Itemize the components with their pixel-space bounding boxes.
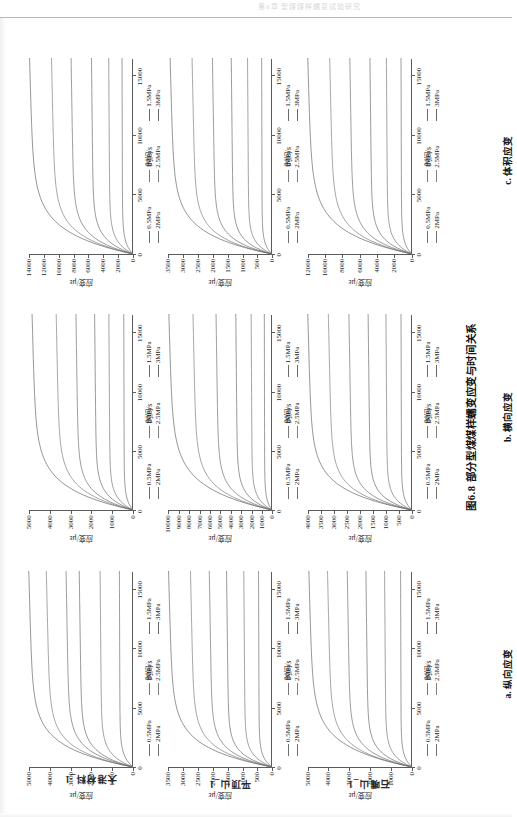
legend-label: 1MPa: [424, 408, 432, 425]
series-line-1.5MPa: [370, 58, 412, 254]
legend-item-1.5MPa[interactable]: 1.5MPa: [424, 63, 432, 121]
y-tick-label: 6000: [85, 259, 92, 273]
y-tick-label: 0: [269, 515, 276, 519]
y-axis-title: 应变/με: [69, 791, 92, 799]
y-tick-label: 1000: [239, 772, 246, 786]
legend-item-0.5MPa[interactable]: 0.5MPa: [145, 698, 153, 756]
x-tick-label: 10000: [276, 384, 283, 402]
y-tick-label: 3000: [330, 515, 337, 529]
legend-item-2MPa[interactable]: 2MPa: [433, 441, 441, 499]
legend-item-1MPa[interactable]: 1MPa: [284, 380, 292, 438]
y-tick-label: 0: [269, 259, 276, 263]
y-tick-label: 3000: [238, 515, 245, 529]
chart-cell-r3c1: 石嘴山_101000200030004000500005000100001500…: [300, 545, 439, 802]
y-tick-label: 1500: [224, 259, 231, 273]
legend-item-0.5MPa[interactable]: 0.5MPa: [424, 698, 432, 756]
legend-item-0.5MPa[interactable]: 0.5MPa: [424, 185, 432, 243]
x-tick-label: 15000: [416, 68, 423, 86]
y-tick-label: 3000: [67, 772, 74, 786]
legend-label: 3MPa: [433, 603, 441, 620]
legend-item-3MPa[interactable]: 3MPa: [433, 63, 441, 121]
y-axis-title: 应变/με: [348, 535, 371, 543]
y-tick: [213, 255, 214, 258]
series-line-3MPa: [169, 314, 272, 510]
legend-label: 2MPa: [433, 212, 441, 229]
x-tick-label: 15000: [416, 324, 423, 342]
legend-item-1MPa[interactable]: 1MPa: [284, 637, 292, 695]
legend-item-1MPa[interactable]: 1MPa: [424, 124, 432, 182]
series-line-1.5MPa: [95, 314, 133, 510]
figure-6-8: 大港材料_10100020003000400050000500010000150…: [21, 32, 491, 802]
legend-label: 3MPa: [433, 347, 441, 364]
y-tick: [198, 255, 199, 258]
legend-item-0.5MPa[interactable]: 0.5MPa: [145, 441, 153, 499]
y-tick-label: 1500: [224, 772, 231, 786]
series-line-2.5MPa: [328, 314, 412, 510]
legend-item-2MPa[interactable]: 2MPa: [433, 698, 441, 756]
legend-r3c3: 0.5MPa1MPa1.5MPa2MPa2.5MPa3MPa: [424, 63, 441, 243]
curve-layer: [308, 571, 412, 767]
series-line-3MPa: [309, 571, 412, 767]
legend-item-2.5MPa[interactable]: 2.5MPa: [433, 637, 441, 695]
legend-item-2MPa[interactable]: 2MPa: [433, 185, 441, 243]
legend-item-1.5MPa[interactable]: 1.5MPa: [284, 63, 292, 121]
legend-item-1MPa[interactable]: 1MPa: [424, 637, 432, 695]
legend-item-0.5MPa[interactable]: 0.5MPa: [284, 698, 292, 756]
legend-label: 1.5MPa: [145, 85, 153, 107]
legend-item-1.5MPa[interactable]: 1.5MPa: [284, 576, 292, 634]
y-tick: [50, 511, 51, 514]
legend-swatch-line-icon: [436, 109, 437, 121]
y-tick-label: 8000: [186, 515, 193, 529]
y-axis-title: 应变/με: [69, 535, 92, 543]
y-tick-label: 2500: [195, 772, 202, 786]
legend-swatch-line-icon: [436, 365, 437, 377]
legend-item-1MPa[interactable]: 1MPa: [424, 380, 432, 438]
legend-item-1.5MPa[interactable]: 1.5MPa: [284, 319, 292, 377]
legend-item-1MPa[interactable]: 1MPa: [145, 637, 153, 695]
legend-item-0.5MPa[interactable]: 0.5MPa: [284, 441, 292, 499]
y-tick-label: 3000: [346, 772, 353, 786]
y-tick-label: 1000: [258, 515, 265, 529]
curve-layer: [29, 58, 133, 254]
legend-item-1.5MPa[interactable]: 1.5MPa: [424, 576, 432, 634]
y-tick: [349, 768, 350, 771]
y-tick-label: 1000: [109, 772, 116, 786]
curve-layer: [168, 314, 272, 510]
subplot-caption-band: a. 纵向应变b. 横向应变c. 体积应变: [497, 32, 517, 802]
legend-item-1.5MPa[interactable]: 1.5MPa: [145, 319, 153, 377]
x-tick-label: 0: [276, 510, 283, 514]
legend-item-1MPa[interactable]: 1MPa: [145, 124, 153, 182]
y-tick-label: 10000: [165, 515, 172, 533]
legend-swatch-line-icon: [158, 109, 159, 121]
y-tick: [91, 511, 92, 514]
legend-item-1.5MPa[interactable]: 1.5MPa: [145, 576, 153, 634]
legend-label: 1MPa: [284, 151, 292, 168]
x-tick-label: 0: [276, 766, 283, 770]
legend-item-0.5MPa[interactable]: 0.5MPa: [284, 185, 292, 243]
series-line-2MPa: [71, 58, 133, 254]
legend-item-2.5MPa[interactable]: 2.5MPa: [433, 124, 441, 182]
page-header-rule: [0, 0, 512, 18]
legend-swatch-line-icon: [297, 231, 298, 243]
y-tick: [168, 255, 169, 258]
subplot-caption-a: a. 纵向应变: [497, 545, 517, 802]
y-tick: [220, 511, 221, 514]
legend-item-1.5MPa[interactable]: 1.5MPa: [424, 319, 432, 377]
plot-area-r2c3: 0500100015002000250030003500050001000015…: [168, 59, 272, 255]
y-tick: [50, 768, 51, 771]
legend-item-1MPa[interactable]: 1MPa: [284, 124, 292, 182]
y-tick-label: 1000: [382, 515, 389, 529]
legend-item-0.5MPa[interactable]: 0.5MPa: [145, 185, 153, 243]
legend-item-1MPa[interactable]: 1MPa: [145, 380, 153, 438]
legend-item-1.5MPa[interactable]: 1.5MPa: [145, 63, 153, 121]
legend-item-3MPa[interactable]: 3MPa: [433, 319, 441, 377]
legend-swatch-line-icon: [427, 231, 428, 243]
legend-item-3MPa[interactable]: 3MPa: [433, 576, 441, 634]
legend-item-2.5MPa[interactable]: 2.5MPa: [433, 380, 441, 438]
legend-item-0.5MPa[interactable]: 0.5MPa: [424, 441, 432, 499]
y-tick: [213, 768, 214, 771]
series-line-1MPa: [109, 314, 133, 510]
legend-swatch-line-icon: [297, 426, 298, 438]
legend-swatch-line-icon: [149, 744, 150, 756]
legend-swatch-line-icon: [149, 109, 150, 121]
